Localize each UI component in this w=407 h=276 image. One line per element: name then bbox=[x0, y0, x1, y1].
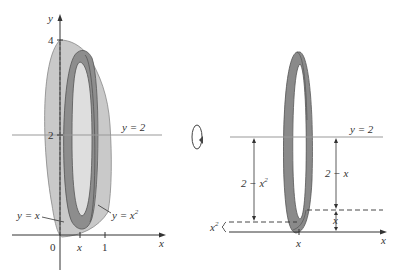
curve-label-y-eq-x: y = x bbox=[16, 209, 40, 221]
tick-label-x-right: x bbox=[295, 237, 301, 249]
tick-label-2: 2 bbox=[48, 129, 54, 141]
tick-label-x: x bbox=[76, 241, 82, 253]
rotation-arrow-icon bbox=[192, 125, 203, 149]
left-panel: y 4 2 0 x 1 x y = 2 y = x y = x2 bbox=[12, 12, 166, 270]
line-label-y2-right: y = 2 bbox=[349, 123, 374, 135]
tick-label-1: 1 bbox=[102, 241, 108, 253]
tick-label-0: 0 bbox=[50, 241, 56, 253]
dim-label-x2-small: x2 bbox=[209, 220, 219, 233]
y-axis-label: y bbox=[47, 12, 53, 24]
right-panel: y = 2 2 − x2 2 − x x x2 x x bbox=[209, 52, 387, 249]
washer-ring bbox=[284, 52, 313, 233]
line-label-y2: y = 2 bbox=[121, 121, 146, 133]
diagram-canvas: y 4 2 0 x 1 x y = 2 y = x y = x2 bbox=[0, 0, 407, 276]
dim-label-x-small: x bbox=[332, 214, 338, 226]
tick-label-4: 4 bbox=[48, 34, 54, 46]
curve-label-y-eq-x2: y = x2 bbox=[111, 208, 139, 221]
x-axis-label: x bbox=[158, 237, 164, 249]
x-axis-label-right: x bbox=[380, 234, 386, 246]
dim-label-2-minus-x2: 2 − x2 bbox=[241, 176, 268, 189]
dim-label-2-minus-x: 2 − x bbox=[325, 167, 348, 179]
